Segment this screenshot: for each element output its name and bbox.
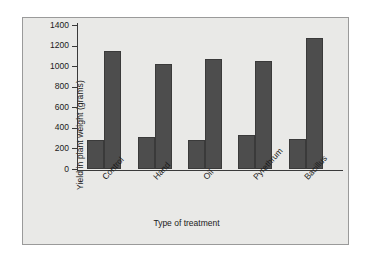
chart-panel: Yield in plant weight (grams) Type of tr… <box>22 17 349 245</box>
bar <box>238 135 255 169</box>
bar <box>205 59 222 169</box>
bar <box>306 38 323 169</box>
plot-area <box>77 25 329 169</box>
bar <box>104 51 121 169</box>
y-axis-tick-label: 600 <box>55 102 69 112</box>
y-axis-tick: 0 <box>72 169 77 170</box>
bar <box>188 140 205 169</box>
y-axis-tick-label: 400 <box>55 122 69 132</box>
y-axis-tick-label: 200 <box>55 143 69 153</box>
y-axis-tick-label: 1000 <box>50 61 69 71</box>
bar <box>155 64 172 169</box>
figure: Yield in plant weight (grams) Type of tr… <box>0 0 371 261</box>
y-axis-tick-label: 1200 <box>50 40 69 50</box>
y-axis-tick-label: 1400 <box>50 20 69 30</box>
y-axis-tick-label: 0 <box>64 164 69 174</box>
x-axis-title: Type of treatment <box>23 218 350 228</box>
y-axis-tick-label: 800 <box>55 81 69 91</box>
bar <box>138 137 155 169</box>
bar <box>87 140 104 169</box>
bar <box>289 139 306 169</box>
